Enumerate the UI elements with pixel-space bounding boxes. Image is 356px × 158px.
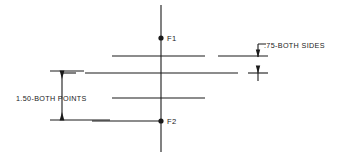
engineering-drawing-canvas: 1.50-BOTH POINTS .75-BOTH SIDES F1 F2 <box>0 0 356 158</box>
arrowhead-up-bottom <box>60 112 65 121</box>
drawing-svg: 1.50-BOTH POINTS .75-BOTH SIDES F1 F2 <box>0 0 356 158</box>
dimension-label-leader: .75-BOTH SIDES <box>264 41 325 50</box>
point-marker-f1 <box>158 35 163 40</box>
arrowhead-leader-lower <box>256 66 260 74</box>
point-label-f2: F2 <box>167 117 176 126</box>
arrowhead-down-top <box>60 71 65 80</box>
dimension-label-vertical: 1.50-BOTH POINTS <box>16 94 87 103</box>
point-label-f1: F1 <box>167 34 176 43</box>
point-marker-f2 <box>158 118 163 123</box>
